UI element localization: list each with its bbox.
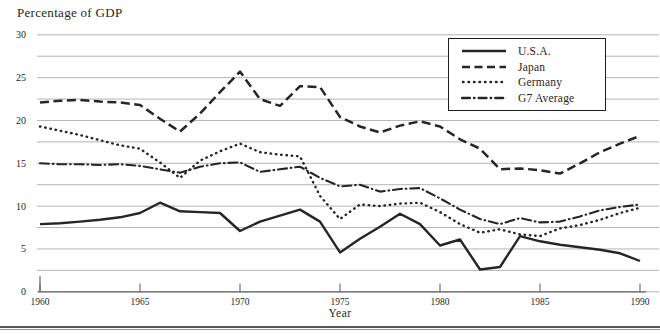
legend-label-usa: U.S.A.	[518, 45, 551, 57]
legend-item-japan: Japan	[461, 61, 597, 73]
legend-solid-line-swatch	[461, 48, 507, 54]
series-line-u-s-a	[40, 203, 640, 270]
legend-label-japan: Japan	[518, 61, 545, 73]
x-tick-label: 1980	[431, 297, 450, 307]
legend-dotted-line-swatch	[461, 79, 507, 85]
y-tick-label: 20	[16, 115, 26, 126]
x-tick-label: 1970	[231, 297, 250, 307]
x-tick-label: 1965	[131, 297, 150, 307]
legend-label-germany: Germany	[518, 76, 562, 88]
y-tick-label: 5	[21, 243, 26, 254]
legend-label-g7-average: G7 Average	[518, 92, 574, 104]
bottom-rule-dark	[0, 326, 660, 328]
x-tick-label: 1960	[31, 297, 50, 307]
y-axis-title: Percentage of GDP	[17, 5, 122, 21]
legend-item-usa: U.S.A.	[461, 45, 597, 57]
x-tick-label: 1975	[331, 297, 350, 307]
y-tick-label: 30	[16, 29, 26, 40]
y-tick-label: 10	[16, 201, 26, 212]
y-tick-label: 25	[16, 72, 26, 83]
legend-item-germany: Germany	[461, 76, 597, 88]
legend-dashed-line-swatch	[461, 64, 507, 70]
series-line-germany	[40, 127, 640, 237]
legend-box: U.S.A. Japan Germany G7 Average	[448, 38, 606, 111]
y-tick-label: 0	[21, 286, 26, 297]
saving-rate-chart-figure: 1960196519701975198019851990051015202530…	[0, 0, 660, 335]
x-axis-title: Year	[40, 307, 640, 319]
x-tick-label: 1990	[631, 297, 650, 307]
legend-dashdot-line-swatch	[461, 95, 507, 101]
y-tick-label: 15	[16, 158, 26, 169]
bottom-rule-light	[0, 329, 660, 330]
x-tick-label: 1985	[531, 297, 550, 307]
legend-item-g7-average: G7 Average	[461, 92, 597, 104]
